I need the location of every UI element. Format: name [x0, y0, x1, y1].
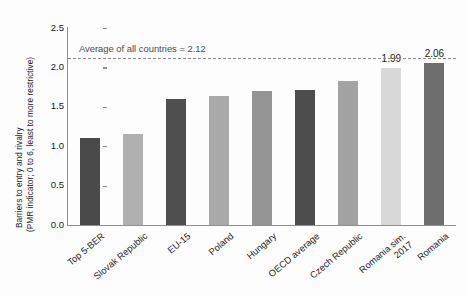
- y-axis-title-line-2: (PMR indicator; 0 to 6, least to more re…: [25, 57, 36, 232]
- x-tick-label-line: Poland: [207, 231, 236, 257]
- y-axis-title: Barriers to entry and rivalry (PMR indic…: [0, 0, 40, 240]
- x-tick-label: OECD average: [193, 231, 322, 297]
- bar: [209, 96, 229, 225]
- x-tick-label: Romania: [322, 231, 451, 297]
- x-tick-label: EU-15: [63, 231, 192, 297]
- x-tick-label: Czech Republic: [236, 231, 365, 297]
- y-axis-title-line-1: Barriers to entry and rivalry: [14, 127, 25, 228]
- x-tick-label-line: Czech Republic: [308, 231, 364, 281]
- x-tick-label-line: Top 5-BER: [65, 231, 106, 268]
- bar: [424, 63, 444, 225]
- y-axis-ticks: 0.00.51.01.52.02.5: [36, 0, 64, 297]
- y-tick-label: 0.0: [38, 219, 64, 230]
- bar: [338, 81, 358, 225]
- bar: [252, 91, 272, 225]
- x-tick-label-line: 2017: [286, 239, 415, 297]
- x-tick-label-line: Slovak Republic: [92, 231, 150, 282]
- chart-figure: Barriers to entry and rivalry (PMR indic…: [0, 0, 468, 297]
- x-tick-label-line: Romania sim.: [358, 231, 408, 275]
- y-tick-label: 0.5: [38, 179, 64, 190]
- x-tick-label: Poland: [106, 231, 235, 297]
- bar: [381, 68, 401, 225]
- bar: [123, 134, 143, 225]
- average-reference-line: [68, 58, 456, 59]
- y-tick-label: 2.5: [38, 22, 64, 33]
- x-tick-label-line: EU-15: [166, 231, 193, 256]
- x-tick-label: Romania sim.2017: [279, 231, 415, 297]
- x-tick-label-line: Romania: [416, 231, 451, 263]
- x-tick-label-line: OECD average: [267, 231, 322, 279]
- y-tick-label: 1.0: [38, 140, 64, 151]
- bar: [80, 138, 100, 225]
- x-axis-line: [67, 225, 456, 226]
- bar: [166, 99, 186, 225]
- y-tick-label: 1.5: [38, 100, 64, 111]
- x-tick-label: Hungary: [149, 231, 278, 297]
- y-tick-label: 2.0: [38, 61, 64, 72]
- average-annotation-label: Average of all countries = 2.12: [79, 43, 206, 54]
- x-tick-label-line: Hungary: [245, 231, 278, 261]
- bar: [295, 90, 315, 225]
